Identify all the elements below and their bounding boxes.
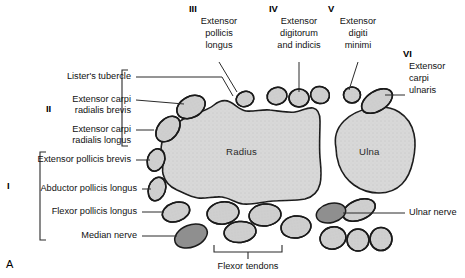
label-ecrl-line2: radialis longus xyxy=(0,135,131,146)
label-epl-line1: Extensor xyxy=(189,16,249,27)
label-ecu-line1: Extensor xyxy=(409,61,445,72)
label-flexor-tendons: Flexor tendons xyxy=(198,261,298,272)
bone-label-ulna: Ulna xyxy=(359,146,380,157)
label-edm-line2: digiti xyxy=(328,28,388,39)
label-ecrl-line1: Extensor carpi xyxy=(0,124,131,135)
label-ecu-line3: ulnaris xyxy=(409,85,436,96)
label-ecu-line2: carpi xyxy=(409,73,429,84)
label-listers-tubercle: Lister's tubercle xyxy=(0,71,131,82)
label-edi-line1: Extensor xyxy=(264,16,334,27)
compartment-numeral-III: III xyxy=(189,3,249,14)
label-abductor-pollicis-longus: Abductor pollicis longus xyxy=(0,183,137,194)
panel-letter: A xyxy=(6,258,13,270)
label-epl-line3: longus xyxy=(189,40,249,51)
compartment-numeral-IV: IV xyxy=(269,3,329,14)
label-extensor-pollicis-brevis: Extensor pollicis brevis xyxy=(0,154,131,165)
compartment-numeral-V: V xyxy=(328,3,388,14)
label-flexor-pollicis-longus: Flexor pollicis longus xyxy=(0,206,137,217)
label-edm-line3: minimi xyxy=(328,40,388,51)
label-median-nerve: Median nerve xyxy=(0,230,137,241)
label-ecrb-line1: Extensor carpi xyxy=(0,94,131,105)
label-ulnar-nerve: Ulnar nerve xyxy=(409,207,457,218)
label-epl-line2: pollicis xyxy=(189,28,249,39)
label-edi-line3: and indicis xyxy=(264,40,334,51)
label-edm-line1: Extensor xyxy=(328,16,388,27)
label-edi-line2: digitorum xyxy=(264,28,334,39)
compartment-numeral-VI: VI xyxy=(403,48,443,59)
ulnar-nerve-shape xyxy=(314,200,348,226)
median-nerve-shape xyxy=(171,219,211,252)
bone-label-radius: Radius xyxy=(226,146,257,157)
label-ecrb-line2: radialis brevis xyxy=(0,105,131,116)
